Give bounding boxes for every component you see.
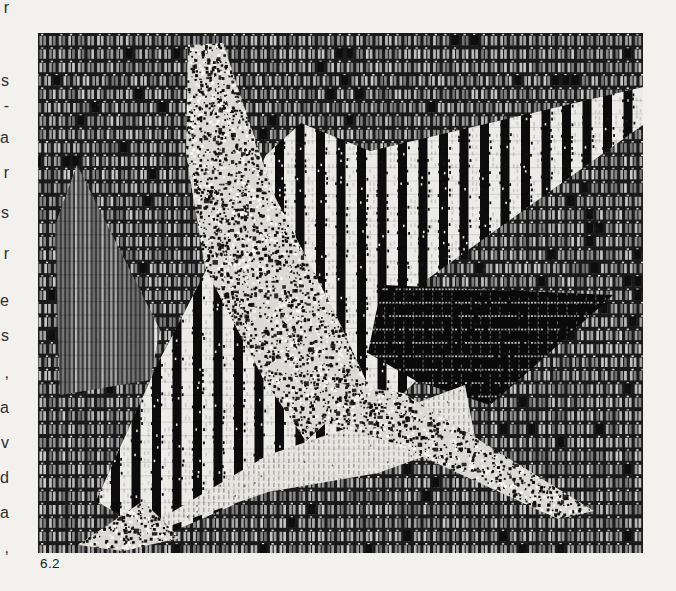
margin-text-fragment: e bbox=[0, 293, 9, 309]
margin-text-fragment: d bbox=[0, 470, 9, 486]
margin-text-fragment: s bbox=[0, 328, 9, 344]
margin-text-fragment: r bbox=[0, 0, 9, 16]
margin-text-fragment: , bbox=[0, 365, 9, 381]
margin-text-fragment: a bbox=[0, 505, 9, 521]
margin-text-fragment: a bbox=[0, 130, 9, 146]
scanned-book-page: rs-arsres,avda, 6.2 bbox=[0, 0, 676, 591]
margin-text-fragment: a bbox=[0, 400, 9, 416]
margin-text-fragment: - bbox=[0, 98, 9, 114]
halftone-figure-image bbox=[38, 33, 643, 553]
margin-text-fragment: r bbox=[0, 246, 9, 262]
margin-text-fragment: r bbox=[0, 165, 9, 181]
figure-caption: 6.2 bbox=[40, 556, 60, 571]
margin-text-fragment: v bbox=[0, 435, 9, 451]
margin-text-fragment: s bbox=[0, 73, 9, 89]
margin-text-fragment: , bbox=[0, 540, 9, 556]
margin-text-fragment: s bbox=[0, 205, 9, 221]
